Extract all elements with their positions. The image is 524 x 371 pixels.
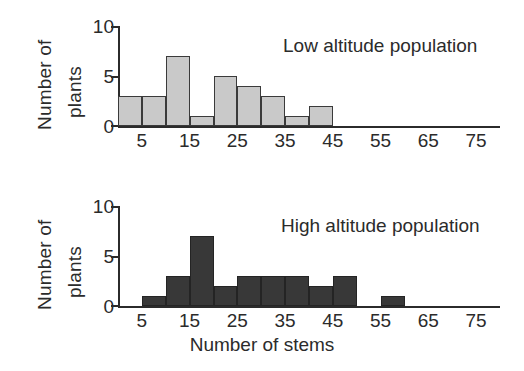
bar [190,116,214,126]
panel-low-altitude: Number of plants 10 5 0 515253545556575 … [0,0,524,170]
x-tick-label-65: 65 [418,311,439,330]
x-tick-label-25: 25 [227,131,248,150]
y-tick-label-0-bottom: 0 [84,297,114,316]
x-tick-label-5: 5 [137,131,148,150]
bar [214,76,238,126]
bar [309,286,333,306]
panel-caption-high-altitude: High altitude population [281,216,480,235]
x-axis-line-bottom [118,306,500,308]
x-tick-label-75: 75 [466,311,487,330]
bar [381,296,405,306]
y-tick-label-10-top: 10 [84,17,114,36]
y-tick-label-0-top: 0 [84,117,114,136]
bar [214,286,238,306]
x-tick-label-55: 55 [370,311,391,330]
x-tick-label-35: 35 [275,311,296,330]
y-axis-title-bottom-line1: Number of [34,219,56,310]
x-axis-title: Number of stems [0,334,524,356]
bar [166,56,190,126]
bar [190,236,214,306]
x-tick-label-75: 75 [466,131,487,150]
x-tick-label-55: 55 [370,131,391,150]
bar [261,276,285,306]
x-tick-label-35: 35 [275,131,296,150]
x-tick-label-65: 65 [418,131,439,150]
bar [118,96,142,126]
x-tick-label-45: 45 [322,131,343,150]
bar [285,276,309,306]
y-tick-label-5-top: 5 [84,67,114,86]
bar [285,116,309,126]
bar [166,276,190,306]
x-tick-labels-bottom: 515253545556575 [118,311,500,335]
bar [142,296,166,306]
x-tick-label-25: 25 [227,311,248,330]
x-tick-labels-top: 515253545556575 [118,131,500,155]
histogram-figure: Number of plants 10 5 0 515253545556575 … [0,0,524,371]
x-tick-label-15: 15 [179,311,200,330]
y-tick-labels-bottom: 10 5 0 [80,206,114,306]
x-tick-label-45: 45 [322,311,343,330]
x-axis-line-top [118,126,500,128]
bar [261,96,285,126]
bar [237,86,261,126]
y-axis-title-top-line1: Number of [34,39,56,130]
bar [309,106,333,126]
y-tick-labels-top: 10 5 0 [80,26,114,126]
panel-high-altitude: Number of plants 10 5 0 515253545556575 … [0,180,524,330]
x-tick-label-5: 5 [137,311,148,330]
y-tick-label-5-bottom: 5 [84,247,114,266]
x-tick-label-15: 15 [179,131,200,150]
bar [237,276,261,306]
y-tick-label-10-bottom: 10 [84,197,114,216]
panel-caption-low-altitude: Low altitude population [283,36,477,55]
bar [333,276,357,306]
bar [142,96,166,126]
